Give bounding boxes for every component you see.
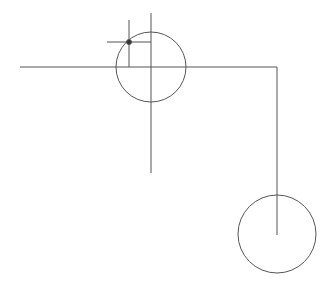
point-marker[interactable] xyxy=(127,40,132,45)
drawing-canvas xyxy=(0,0,326,285)
